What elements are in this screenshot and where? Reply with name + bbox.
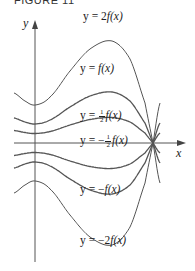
label-prefix: y =: [80, 109, 98, 121]
label-prefix: y = −2: [80, 234, 110, 246]
curve-label-f: y = f(x): [80, 62, 114, 74]
curve-label-neg-2f: y = −2f(x): [80, 234, 126, 246]
label-function: f(x): [110, 234, 126, 246]
y-axis-label: y: [23, 16, 28, 31]
x-axis-label: x: [176, 146, 181, 161]
label-function: f(x): [112, 134, 128, 146]
label-prefix: y = 2: [83, 10, 107, 22]
label-prefix: y = −: [80, 183, 104, 195]
curve-label-neg-f: y = −f(x): [80, 183, 120, 195]
label-function: f(x): [98, 62, 114, 74]
label-prefix: y = −: [80, 134, 104, 146]
label-function: f(x): [104, 183, 120, 195]
fraction: 12: [99, 109, 105, 124]
fraction: 12: [105, 134, 111, 149]
curve-label-neg-half-f: y = −12f(x): [80, 134, 128, 149]
curve-label-half-f: y = 12f(x): [80, 109, 121, 124]
label-function: f(x): [106, 109, 122, 121]
y-axis-arrow-icon: [32, 20, 38, 29]
curve-label-2f: y = 2f(x): [83, 10, 123, 22]
label-prefix: y =: [80, 62, 98, 74]
label-function: f(x): [107, 10, 123, 22]
